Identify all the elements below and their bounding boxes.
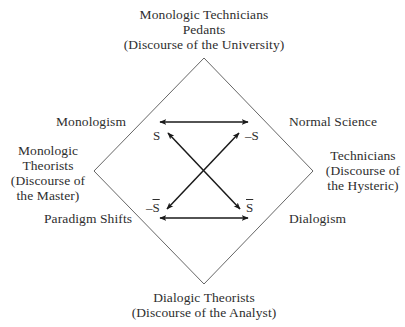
top-label-line-1: Monologic Technicians [104, 7, 304, 22]
left-label: Monologic Theorists (Discourse of the Ma… [0, 143, 96, 203]
bottom-label-line-2: (Discourse of the Analyst) [104, 305, 304, 320]
left-label-line-3: (Discourse of [0, 173, 96, 188]
symbol-neg-s-bar: –S [146, 201, 160, 214]
symbol-s-bar: S [246, 201, 253, 214]
top-label-line-3: (Discourse of the University) [104, 37, 304, 52]
top-label-line-2: Pedants [104, 22, 304, 37]
right-label-line-1: Technicians [318, 148, 405, 163]
right-label: Technicians (Discourse of the Hysteric) [318, 148, 405, 193]
left-label-line-1: Monologic [0, 143, 96, 158]
bottom-label: Dialogic Theorists (Discourse of the Ana… [104, 290, 304, 320]
corner-label-paradigm-shifts: Paradigm Shifts [44, 211, 132, 226]
right-label-line-2: (Discourse of [318, 163, 405, 178]
corner-label-monologism: Monologism [56, 114, 126, 129]
left-label-line-4: the Master) [0, 188, 96, 203]
corner-label-dialogism: Dialogism [289, 211, 346, 226]
symbol-s: S [153, 129, 160, 142]
left-label-line-2: Theorists [0, 158, 96, 173]
bottom-label-line-1: Dialogic Theorists [104, 290, 304, 305]
symbol-neg-s-bar-letter: S [153, 200, 160, 215]
top-label: Monologic Technicians Pedants (Discourse… [104, 7, 304, 52]
symbol-neg-s: –S [245, 129, 259, 142]
right-label-line-3: the Hysteric) [318, 178, 405, 193]
corner-label-normal-science: Normal Science [289, 114, 377, 129]
symbol-s-bar-letter: S [246, 200, 253, 215]
